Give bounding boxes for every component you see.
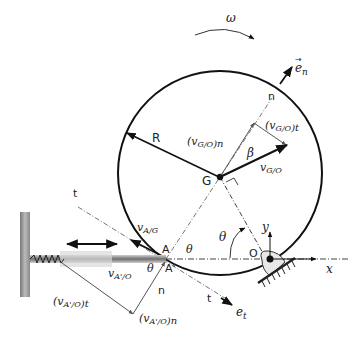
disk bbox=[118, 71, 322, 275]
theta-label-a-prime: θ bbox=[147, 262, 154, 275]
point-a-label: A bbox=[162, 243, 170, 256]
v-go-normal-label: (vG/O)n bbox=[187, 135, 224, 149]
v-apo-normal-label: (vA'/O)n bbox=[139, 312, 177, 326]
mechanics-diagram: ω en → n t t R G (vG/O)n (vG/O)t β vG/O … bbox=[0, 0, 364, 342]
right-angle-mark bbox=[226, 178, 238, 185]
point-a-prime-label: A' bbox=[165, 262, 176, 275]
n-axis-label-top: n bbox=[268, 90, 275, 103]
theta-label-a: θ bbox=[186, 243, 193, 256]
radius-label: R bbox=[152, 131, 160, 145]
e-n-vec-bar: → bbox=[295, 55, 302, 64]
e-n-arrow bbox=[280, 67, 292, 84]
point-o-label: O bbox=[249, 247, 258, 260]
x-axis-label: x bbox=[326, 262, 333, 276]
y-axis-label: y bbox=[261, 220, 269, 234]
center-g-label: G bbox=[202, 174, 211, 188]
v-apo-tangent-label: (vA'/O)t bbox=[53, 295, 90, 309]
t-axis-label-top: t bbox=[73, 187, 78, 200]
t-axis-label-bottom: t bbox=[207, 292, 212, 305]
theta-arc-o bbox=[230, 228, 245, 258]
theta-label-o: θ bbox=[219, 230, 227, 244]
v-go-label: vG/O bbox=[260, 161, 282, 175]
pivot-support bbox=[258, 251, 295, 287]
beta-label: β bbox=[246, 146, 254, 160]
omega-label: ω bbox=[226, 11, 236, 25]
e-t-label: et bbox=[236, 305, 247, 321]
g-to-o-line bbox=[220, 177, 264, 255]
v-go-tangent-label: (vG/O)t bbox=[265, 119, 300, 133]
fixed-wall bbox=[20, 212, 30, 297]
slider-housing bbox=[60, 251, 112, 267]
omega-rotation-arrow bbox=[195, 29, 254, 39]
v-apo-label: vA'/O bbox=[108, 267, 132, 281]
v-ag-label: vA/G bbox=[137, 221, 159, 235]
n-axis-label-bottom: n bbox=[158, 284, 165, 297]
